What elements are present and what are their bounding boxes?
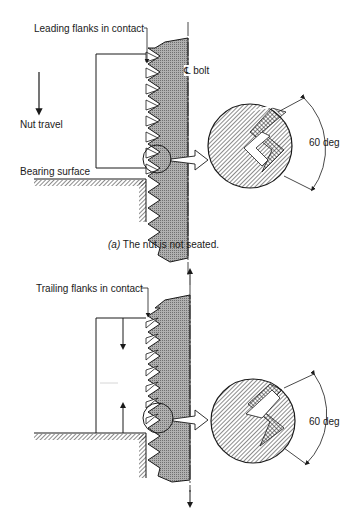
caption-a-text: The nut is not seated. <box>123 239 219 250</box>
magnified-thread-b <box>211 379 295 463</box>
thread-contact-diagram <box>0 0 354 511</box>
label-angle-a: 60 deg <box>309 137 340 148</box>
nut-outline-b <box>96 318 146 433</box>
label-leading-flanks: Leading flanks in contact <box>34 23 144 34</box>
label-angle-b: 60 deg <box>309 416 340 427</box>
label-centerline-bolt: ℄ bolt <box>184 65 209 76</box>
nut-outline-a <box>96 54 146 168</box>
label-trailing-flanks: Trailing flanks in contact <box>36 283 143 294</box>
caption-a: (a) The nut is not seated. <box>108 239 219 250</box>
label-bearing-surface: Bearing surface <box>20 166 90 177</box>
bolt-b <box>148 295 190 482</box>
figure-b-trailing-flanks <box>34 270 327 506</box>
magnified-thread-a <box>208 104 292 188</box>
caption-a-letter: (a) <box>108 239 120 250</box>
figure-a-nut-not-seated <box>34 22 326 275</box>
label-nut-travel: Nut travel <box>20 119 63 130</box>
